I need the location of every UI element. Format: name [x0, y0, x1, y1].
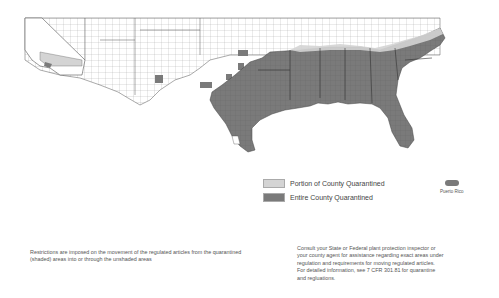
- consult-note: Consult your State or Federal plant prot…: [297, 245, 477, 282]
- consult-line-3: regulation and requirements for moving r…: [297, 260, 477, 267]
- legend-label-portion: Portion of County Quarantined: [290, 180, 385, 187]
- puerto-rico-inset: Puerto Rico: [440, 180, 464, 194]
- consult-line-5: and regluations.: [297, 275, 477, 282]
- legend-item-portion: Portion of County Quarantined: [263, 177, 385, 190]
- consult-line-1: Consult your State or Federal plant prot…: [297, 245, 477, 252]
- legend-swatch-portion: [263, 179, 285, 188]
- quarantine-map: [0, 0, 499, 170]
- legend-swatch-entire: [263, 193, 285, 202]
- restrictions-note: Restrictions are imposed on the movement…: [30, 249, 250, 264]
- puerto-rico-shape: [445, 180, 459, 186]
- consult-line-2: your county agent for assistance regardi…: [297, 252, 477, 259]
- puerto-rico-label: Puerto Rico: [440, 189, 464, 194]
- map-legend: Portion of County Quarantined Entire Cou…: [263, 177, 385, 205]
- legend-item-entire: Entire County Quarantined: [263, 191, 385, 204]
- legend-label-entire: Entire County Quarantined: [290, 194, 373, 201]
- arizona-entire: [155, 75, 163, 83]
- consult-line-4: For detailed information, see 7 CFR 301.…: [297, 267, 477, 274]
